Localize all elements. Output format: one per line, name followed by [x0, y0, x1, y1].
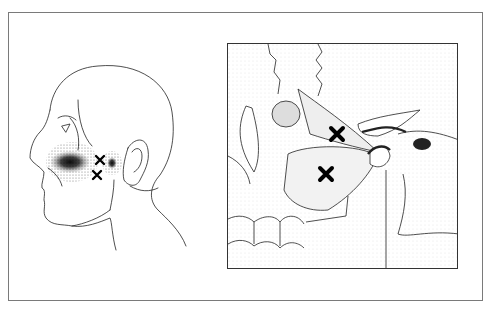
ear-canal	[413, 138, 431, 150]
lateral-pterygoid-illustration	[228, 44, 458, 269]
anatomy-detail-panel	[227, 43, 458, 269]
head-profile-illustration	[0, 0, 230, 300]
trigger-point-x-icon	[93, 171, 101, 179]
referred-pain-core-tmj	[107, 157, 117, 169]
referred-pain-core-cheek	[50, 151, 90, 173]
